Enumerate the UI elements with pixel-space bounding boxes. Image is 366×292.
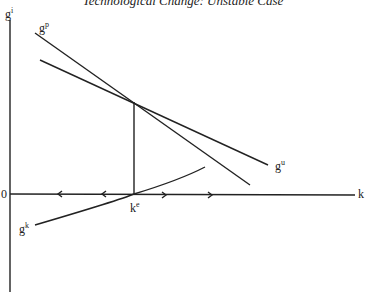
gp-label: gp <box>39 20 49 35</box>
x-axis <box>10 194 355 195</box>
ke-label: ke <box>130 200 140 215</box>
gp-line <box>35 33 250 185</box>
origin-label: 0 <box>1 187 7 201</box>
x-axis-label: k <box>358 187 364 201</box>
gu-line <box>40 60 268 165</box>
gu-label: gu <box>275 158 285 173</box>
gk-label: gk <box>19 221 29 236</box>
diagram-canvas: gi k 0 gp gu gk ke <box>0 0 366 292</box>
y-axis-label: gi <box>5 6 14 21</box>
